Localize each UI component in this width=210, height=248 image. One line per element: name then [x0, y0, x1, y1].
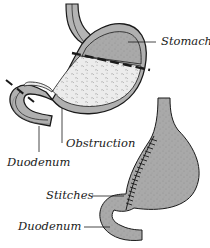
- duodenum-top-label: Duodenum: [7, 157, 70, 169]
- stomach-after: [100, 98, 199, 241]
- stomach-before: [6, 4, 150, 126]
- stitches-label: Stitches: [46, 190, 93, 202]
- duodenum-bottom-label: Duodenum: [18, 221, 81, 233]
- diagram-canvas: Stomach Obstruction Duodenum Stitches Du…: [0, 0, 210, 248]
- stomach-label: Stomach: [161, 36, 210, 48]
- obstruction-label: Obstruction: [66, 138, 135, 150]
